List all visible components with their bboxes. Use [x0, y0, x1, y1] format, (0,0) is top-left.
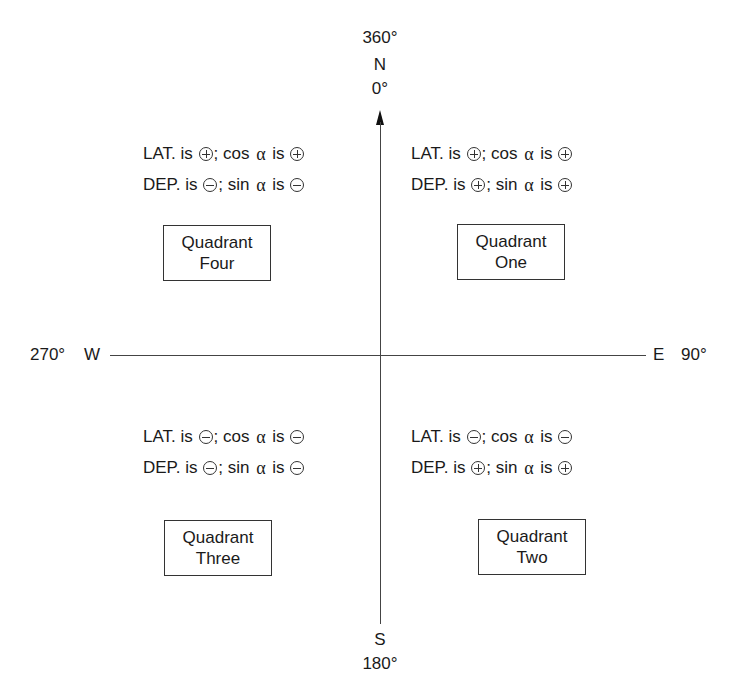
dep-rule: DEP. is ; sin α is — [411, 458, 573, 478]
dep-label: DEP. is — [411, 458, 466, 478]
sin-label: ; sin — [218, 175, 249, 195]
north-letter: N — [350, 55, 410, 75]
west-letter: W — [84, 345, 100, 365]
minus-circle-icon — [290, 178, 304, 192]
plus-circle-icon — [558, 178, 572, 192]
north-0-label: 0° — [350, 79, 410, 99]
east-90-label: 90° — [681, 345, 707, 365]
quadrant-number: Two — [516, 547, 547, 568]
quadrant-four-box: Quadrant Four — [163, 225, 271, 281]
plus-circle-icon — [290, 147, 304, 161]
quadrant-two-rules: LAT. is ; cos α is DEP. is ; sin α is — [411, 427, 573, 478]
minus-circle-icon — [290, 430, 304, 444]
cos-label: ; cos — [482, 427, 518, 447]
alpha-symbol: α — [524, 175, 533, 195]
cos-label: ; cos — [214, 144, 250, 164]
sin-label: ; sin — [486, 175, 517, 195]
is-label: is — [540, 427, 552, 447]
lat-rule: LAT. is ; cos α is — [143, 427, 305, 447]
quadrant-three-box: Quadrant Three — [164, 520, 272, 576]
quadrant-two-box: Quadrant Two — [478, 519, 586, 575]
alpha-symbol: α — [256, 144, 265, 164]
alpha-symbol: α — [524, 144, 533, 164]
lat-label: LAT. is — [143, 427, 193, 447]
quadrant-number: Four — [200, 253, 235, 274]
is-label: is — [272, 458, 284, 478]
cos-label: ; cos — [482, 144, 518, 164]
lat-label: LAT. is — [411, 144, 461, 164]
lat-rule: LAT. is ; cos α is — [143, 144, 305, 164]
quadrant-label: Quadrant — [183, 527, 254, 548]
lat-rule: LAT. is ; cos α is — [411, 427, 573, 447]
sin-label: ; sin — [486, 458, 517, 478]
north-360-label: 360° — [350, 28, 410, 48]
dep-label: DEP. is — [143, 175, 198, 195]
north-south-axis — [380, 122, 382, 624]
quadrant-number: Three — [196, 548, 240, 569]
alpha-symbol: α — [256, 458, 265, 478]
quadrant-three-rules: LAT. is ; cos α is DEP. is ; sin α is — [143, 427, 305, 478]
quadrant-label: Quadrant — [497, 526, 568, 547]
quadrant-four-rules: LAT. is ; cos α is DEP. is ; sin α is — [143, 144, 305, 195]
quadrant-label: Quadrant — [182, 232, 253, 253]
west-270-label: 270° — [30, 345, 65, 365]
quadrant-label: Quadrant — [476, 231, 547, 252]
is-label: is — [540, 458, 552, 478]
south-letter: S — [350, 630, 410, 650]
plus-circle-icon — [199, 147, 213, 161]
alpha-symbol: α — [256, 427, 265, 447]
dep-rule: DEP. is ; sin α is — [411, 175, 573, 195]
is-label: is — [540, 144, 552, 164]
is-label: is — [272, 175, 284, 195]
east-west-axis — [110, 355, 646, 357]
is-label: is — [272, 427, 284, 447]
dep-label: DEP. is — [411, 175, 466, 195]
alpha-symbol: α — [524, 458, 533, 478]
alpha-symbol: α — [256, 175, 265, 195]
plus-circle-icon — [558, 147, 572, 161]
cos-label: ; cos — [214, 427, 250, 447]
minus-circle-icon — [199, 430, 213, 444]
quadrant-number: One — [495, 252, 527, 273]
minus-circle-icon — [558, 430, 572, 444]
alpha-symbol: α — [524, 427, 533, 447]
lat-label: LAT. is — [143, 144, 193, 164]
minus-circle-icon — [203, 461, 217, 475]
dep-label: DEP. is — [143, 458, 198, 478]
minus-circle-icon — [467, 430, 481, 444]
dep-rule: DEP. is ; sin α is — [143, 458, 305, 478]
dep-rule: DEP. is ; sin α is — [143, 175, 305, 195]
is-label: is — [272, 144, 284, 164]
quadrant-one-rules: LAT. is ; cos α is DEP. is ; sin α is — [411, 144, 573, 195]
sin-label: ; sin — [218, 458, 249, 478]
plus-circle-icon — [471, 461, 485, 475]
east-letter: E — [653, 345, 664, 365]
is-label: is — [540, 175, 552, 195]
south-180-label: 180° — [350, 654, 410, 674]
plus-circle-icon — [558, 461, 572, 475]
lat-rule: LAT. is ; cos α is — [411, 144, 573, 164]
lat-label: LAT. is — [411, 427, 461, 447]
plus-circle-icon — [467, 147, 481, 161]
minus-circle-icon — [290, 461, 304, 475]
minus-circle-icon — [203, 178, 217, 192]
plus-circle-icon — [471, 178, 485, 192]
quadrant-one-box: Quadrant One — [457, 224, 565, 280]
